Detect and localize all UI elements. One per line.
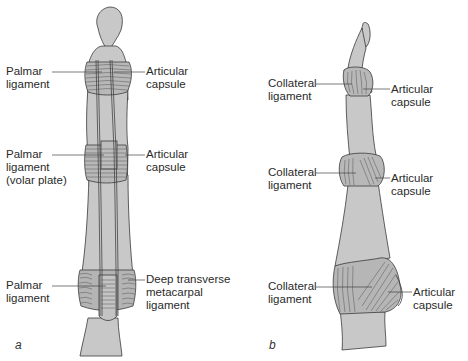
label-collateral-ligament-distal: Collateral ligament [268,77,317,103]
label-line: Palmar [6,65,49,78]
label-articular-capsule-b-middle: Articular capsule [391,172,433,198]
panel-a-drawing [78,7,136,356]
label-line: capsule [391,96,433,109]
label-line: Collateral [268,77,317,90]
label-line: Collateral [268,280,317,293]
label-line: ligament [146,299,230,312]
label-deep-transverse-metacarpal-ligament: Deep transverse metacarpal ligament [146,273,230,312]
label-line: ligament [268,90,317,103]
label-line: metacarpal [146,286,230,299]
label-line: ligament [6,78,49,91]
label-line: capsule [146,161,188,174]
label-articular-capsule-middle: Articular capsule [146,148,188,174]
label-line: capsule [413,299,455,312]
label-palmar-ligament-proximal: Palmar ligament [6,279,49,305]
label-articular-capsule-distal: Articular capsule [146,65,188,91]
label-line: ligament [268,293,317,306]
panel-letter-b: b [269,338,276,352]
label-articular-capsule-b-proximal: Articular capsule [413,286,455,312]
label-line: capsule [391,185,433,198]
label-line: Articular [146,148,188,161]
label-line: Palmar [6,148,67,161]
label-collateral-ligament-middle: Collateral ligament [268,166,317,192]
label-line: ligament [6,161,67,174]
label-palmar-ligament-volar-plate: Palmar ligament (volar plate) [6,148,67,187]
label-line: (volar plate) [6,174,67,187]
label-line: Articular [391,172,433,185]
label-palmar-ligament-distal: Palmar ligament [6,65,49,91]
finger-ligaments-figure: Palmar ligament Palmar ligament (volar p… [0,0,468,361]
panel-letter-a: a [15,338,22,352]
label-line: Palmar [6,279,49,292]
label-line: capsule [146,78,188,91]
label-line: Articular [146,65,188,78]
label-line: ligament [268,179,317,192]
label-line: Deep transverse [146,273,230,286]
label-line: Collateral [268,166,317,179]
label-line: Articular [413,286,455,299]
label-line: Articular [391,83,433,96]
label-collateral-ligament-proximal: Collateral ligament [268,280,317,306]
label-articular-capsule-b-distal: Articular capsule [391,83,433,109]
label-line: ligament [6,292,49,305]
